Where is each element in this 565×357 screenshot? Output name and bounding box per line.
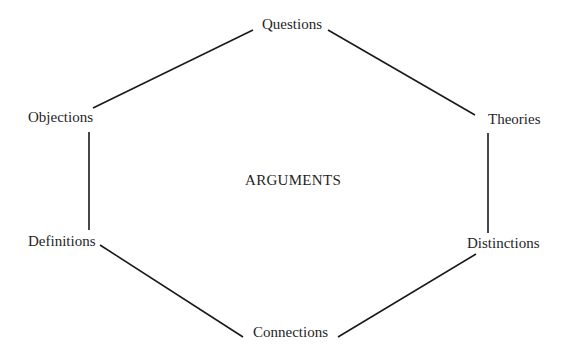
hexagon-cycle-diagram: Questions Theories Distinctions Connecti… [0, 0, 565, 357]
edge-questions-theories [328, 30, 475, 115]
node-objections: Objections [28, 108, 93, 126]
node-connections: Connections [253, 323, 328, 341]
node-distinctions: Distinctions [467, 234, 540, 252]
edge-distinctions-connections [338, 254, 476, 337]
node-questions: Questions [262, 15, 322, 33]
node-definitions: Definitions [28, 232, 96, 250]
edge-objections-questions [93, 30, 253, 108]
center-label-arguments: ARGUMENTS [245, 171, 341, 189]
node-theories: Theories [488, 110, 540, 128]
edge-connections-definitions [100, 245, 243, 337]
